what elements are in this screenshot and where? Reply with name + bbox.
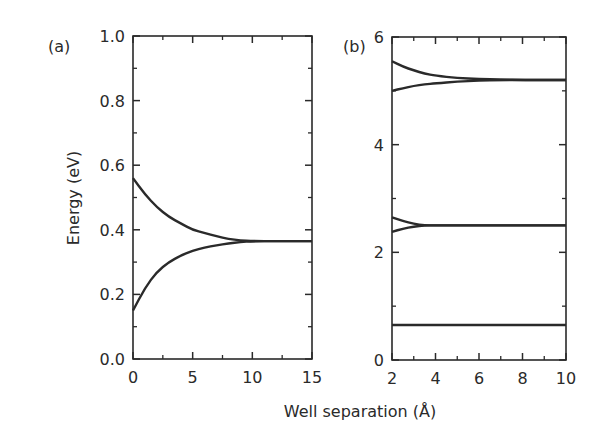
y-tick-label: 0.0 [100, 350, 125, 369]
y-tick-label: 0.8 [100, 92, 125, 111]
y-tick-label: 2 [374, 243, 384, 262]
y-axis-label: Energy (eV) [64, 151, 83, 245]
y-tick-label: 1.0 [100, 27, 125, 46]
x-tick-label: 15 [302, 368, 322, 387]
y-tick-label: 0.6 [100, 156, 125, 175]
panel-a-label: (a) [48, 37, 70, 56]
y-tick-label: 0.2 [100, 285, 125, 304]
x-tick-label: 8 [517, 369, 527, 388]
figure: 0510150.00.20.40.60.81.0 2468100246 (a) … [0, 0, 605, 441]
x-axis-label: Well separation (Å) [284, 402, 436, 421]
data-curve [392, 217, 566, 225]
y-tick-label: 0.4 [100, 221, 125, 240]
x-tick-label: 4 [430, 369, 440, 388]
y-tick-label: 4 [374, 136, 384, 155]
data-curve [392, 80, 566, 91]
x-tick-label: 0 [128, 368, 138, 387]
x-tick-label: 5 [188, 368, 198, 387]
x-tick-label: 2 [387, 369, 397, 388]
x-tick-label: 10 [556, 369, 576, 388]
plot-frame [133, 36, 312, 359]
panel-b-label: (b) [343, 37, 366, 56]
data-curve [133, 178, 312, 241]
panel-a: 0510150.00.20.40.60.81.0 [100, 27, 323, 387]
x-tick-label: 6 [474, 369, 484, 388]
data-curve [392, 61, 566, 80]
y-tick-label: 0 [374, 351, 384, 370]
x-tick-label: 10 [242, 368, 262, 387]
data-curve [133, 241, 312, 310]
data-curve [392, 225, 566, 231]
panel-b: 2468100246 [374, 28, 576, 388]
y-tick-label: 6 [374, 28, 384, 47]
